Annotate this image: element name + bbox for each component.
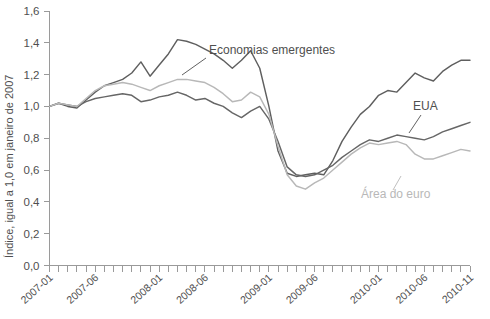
series-annotations: Economias emergentesEUAÁrea do euro	[182, 43, 438, 201]
x-tick-label: 2010-11	[439, 271, 475, 305]
y-tick-label: 0,4	[24, 196, 41, 208]
y-axis-ticks: 0,00,20,40,60,81,01,21,41,6	[24, 5, 50, 272]
x-tick-label: 2008-06	[174, 271, 211, 306]
annotation-label-area-do-euro: Área do euro	[361, 186, 431, 201]
y-tick-label: 1,6	[24, 5, 40, 17]
x-tick-label: 2009-01	[238, 271, 275, 306]
y-tick-label: 0,8	[24, 132, 40, 144]
annotation-label-economias-emergentes: Economias emergentes	[209, 43, 335, 57]
x-axis-tick-labels: 2007-012007-062008-012008-062009-012009-…	[18, 271, 475, 306]
x-tick-label: 2009-06	[283, 271, 320, 306]
annotation-leader-economias-emergentes	[182, 58, 206, 75]
y-axis-label-group: Índice, igual a 1,0 em janeiro de 2007	[3, 75, 15, 258]
series-line-eua	[50, 92, 471, 176]
y-axis-title: Índice, igual a 1,0 em janeiro de 2007	[3, 75, 15, 258]
series-line-economias-emergentes	[50, 40, 471, 177]
x-tick-label: 2010-01	[347, 271, 384, 306]
line-chart: Índice, igual a 1,0 em janeiro de 2007 0…	[0, 0, 490, 319]
x-tick-label: 2008-01	[128, 271, 165, 306]
data-series-group	[50, 40, 471, 190]
y-tick-label: 1,2	[24, 69, 40, 81]
y-tick-label: 1,0	[24, 100, 40, 112]
annotation-label-eua: EUA	[413, 99, 438, 113]
y-tick-label: 0,0	[24, 260, 40, 272]
chart-container: Índice, igual a 1,0 em janeiro de 2007 0…	[0, 0, 490, 319]
y-tick-label: 0,2	[24, 228, 40, 240]
x-tick-label: 2007-01	[18, 271, 55, 306]
x-tick-label: 2010-06	[393, 271, 430, 306]
annotation-leader-eua	[409, 115, 421, 133]
x-tick-label: 2007-06	[64, 271, 101, 306]
x-axis-ticks	[50, 266, 471, 272]
y-tick-label: 1,4	[24, 37, 41, 49]
y-tick-label: 0,6	[24, 164, 40, 176]
